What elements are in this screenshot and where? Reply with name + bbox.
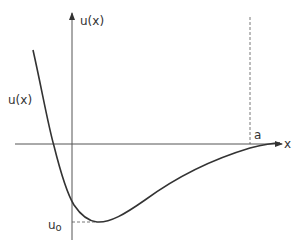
curve-label: u(x) <box>8 93 32 107</box>
potential-curve <box>33 50 280 222</box>
boundary-label: a <box>254 128 261 142</box>
x-axis-label: x <box>284 137 291 151</box>
min-value-label: uo <box>48 218 62 233</box>
potential-diagram: u(x) x u(x) a uo <box>0 0 301 247</box>
y-axis-label: u(x) <box>80 14 104 28</box>
